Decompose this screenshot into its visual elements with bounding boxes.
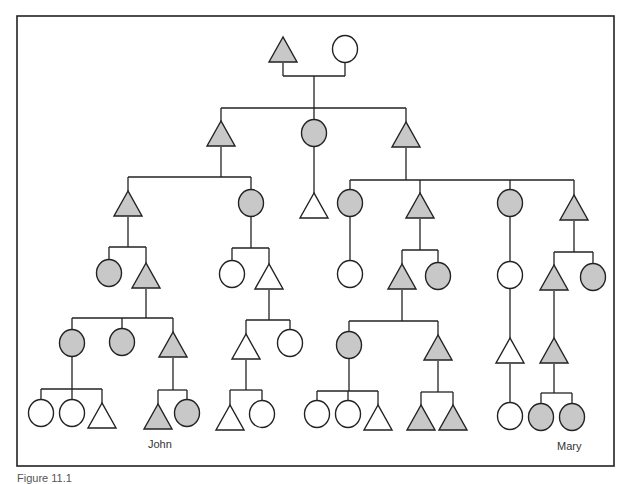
male-triangle-icon xyxy=(406,193,434,218)
male-triangle-icon xyxy=(159,332,187,357)
male-triangle-icon xyxy=(144,404,172,429)
female-circle-icon xyxy=(60,330,85,357)
female-circle-icon xyxy=(239,190,264,217)
female-circle-icon xyxy=(338,190,363,217)
male-triangle-icon xyxy=(540,265,568,290)
female-circle-icon xyxy=(97,260,122,287)
diagram-frame xyxy=(17,16,614,466)
male-triangle-icon xyxy=(114,191,142,216)
male-triangle-icon xyxy=(232,334,260,359)
male-triangle-icon xyxy=(255,264,283,289)
female-circle-icon xyxy=(338,261,363,288)
female-circle-icon xyxy=(29,400,54,427)
label-mary: Mary xyxy=(557,440,581,452)
female-circle-icon xyxy=(305,401,330,428)
female-circle-icon xyxy=(175,400,200,427)
female-circle-icon xyxy=(220,261,245,288)
kin-nodes xyxy=(29,36,606,431)
female-circle-icon xyxy=(302,120,327,147)
female-circle-icon xyxy=(110,329,135,356)
female-circle-icon xyxy=(278,330,303,357)
female-circle-icon xyxy=(250,401,275,428)
female-circle-icon xyxy=(560,404,585,431)
male-triangle-icon xyxy=(364,405,392,430)
female-circle-icon xyxy=(581,264,606,291)
male-triangle-icon xyxy=(424,335,452,360)
female-circle-icon xyxy=(498,403,523,430)
male-triangle-icon xyxy=(269,37,297,62)
male-triangle-icon xyxy=(560,195,588,220)
male-triangle-icon xyxy=(540,338,568,363)
female-circle-icon xyxy=(60,400,85,427)
male-triangle-icon xyxy=(88,403,116,428)
female-circle-icon xyxy=(426,263,451,290)
male-triangle-icon xyxy=(132,263,160,288)
male-triangle-icon xyxy=(300,193,328,218)
male-triangle-icon xyxy=(392,122,420,147)
female-circle-icon xyxy=(498,262,523,289)
male-triangle-icon xyxy=(496,338,524,363)
figure-caption: Figure 11.1 xyxy=(17,472,72,484)
female-circle-icon xyxy=(337,332,362,359)
male-triangle-icon xyxy=(388,264,416,289)
male-triangle-icon xyxy=(407,405,435,430)
female-circle-icon xyxy=(336,401,361,428)
label-john: John xyxy=(148,438,172,450)
female-circle-icon xyxy=(529,404,554,431)
male-triangle-icon xyxy=(439,405,467,430)
female-circle-icon xyxy=(498,190,523,217)
female-circle-icon xyxy=(333,36,358,63)
male-triangle-icon xyxy=(207,121,235,146)
male-triangle-icon xyxy=(216,405,244,430)
